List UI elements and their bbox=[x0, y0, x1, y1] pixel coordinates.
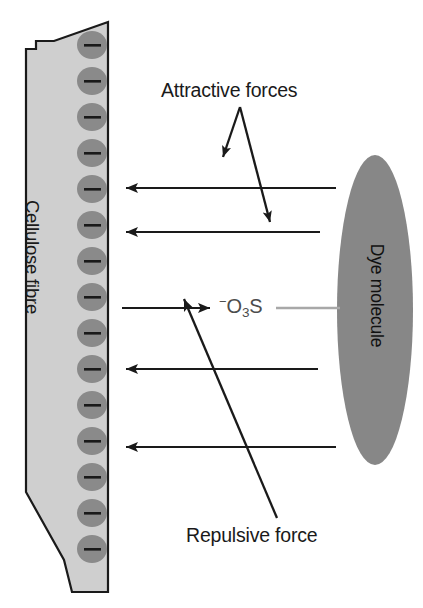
sulfonate-charge-sign: − bbox=[219, 294, 227, 309]
charge-site bbox=[77, 103, 107, 131]
sulfonate-oxygen: O bbox=[227, 295, 242, 317]
attractive-pointer-right bbox=[240, 107, 270, 222]
charge-site bbox=[77, 283, 107, 311]
negative-charge-group bbox=[77, 31, 107, 563]
repulsive-arrow-diagonal bbox=[184, 299, 277, 518]
attractive-pointer-left bbox=[223, 107, 240, 157]
charge-site bbox=[77, 67, 107, 95]
dye-molecule-label: Dye molecule bbox=[366, 196, 387, 396]
charge-site bbox=[77, 535, 107, 563]
sulfonate-sulfur: S bbox=[249, 295, 262, 317]
charge-site bbox=[77, 175, 107, 203]
charge-site bbox=[77, 427, 107, 455]
cellulose-fibre-label: Cellulose fibre bbox=[21, 157, 43, 357]
charge-site bbox=[77, 139, 107, 167]
charge-site bbox=[77, 31, 107, 59]
charge-site bbox=[77, 319, 107, 347]
repulsive-force-label: Repulsive force bbox=[186, 524, 317, 547]
charge-site bbox=[77, 247, 107, 275]
charge-site bbox=[77, 463, 107, 491]
charge-site bbox=[77, 211, 107, 239]
charge-site bbox=[77, 355, 107, 383]
attractive-forces-label: Attractive forces bbox=[161, 79, 297, 102]
charge-site bbox=[77, 391, 107, 419]
charge-site bbox=[77, 499, 107, 527]
sulfonate-group-label: −O3S bbox=[219, 294, 262, 320]
dye-fibre-interaction-diagram: Attractive forces Repulsive force Cellul… bbox=[0, 0, 423, 608]
